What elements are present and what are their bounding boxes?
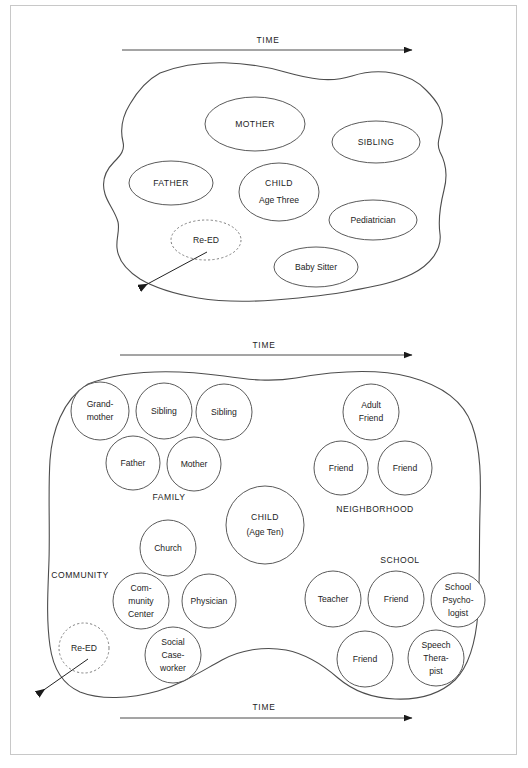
node-adult-friend[interactable]: Adult Friend <box>343 384 399 440</box>
node-sibling-2-label: Sibling <box>211 407 237 417</box>
figure-page: TIME MOTHER SIBLING FATHER CHILD <box>0 0 528 768</box>
node-child-age-ten-label: CHILD <box>251 512 279 522</box>
node-social-caseworker[interactable]: Social Case- worker <box>145 627 201 683</box>
node-baby-sitter-top[interactable]: Baby Sitter <box>274 247 358 287</box>
group-label-family: FAMILY <box>153 492 186 502</box>
node-school-psychologist[interactable]: School Psycho- logist <box>431 573 485 627</box>
group-label-neighborhood: NEIGHBORHOOD <box>336 504 414 514</box>
node-school-psychologist-label: School <box>445 582 471 592</box>
top-nodes: MOTHER SIBLING FATHER CHILD Age Three Pe… <box>129 97 420 288</box>
node-father-bottom[interactable]: Father <box>106 436 160 490</box>
node-mother-bottom[interactable]: Mother <box>167 437 221 491</box>
node-friend-neighborhood-2-label: Friend <box>393 463 418 473</box>
node-child-age-ten-shape <box>226 486 304 564</box>
node-father-top-label: FATHER <box>153 178 189 188</box>
time-axis-middle: TIME <box>120 340 412 355</box>
node-speech-therapist-label2: Thera- <box>423 653 448 663</box>
node-father-bottom-label: Father <box>121 458 146 468</box>
node-re-ed-bottom-label: Re-ED <box>71 643 97 653</box>
node-friend-school-1[interactable]: Friend <box>368 571 424 627</box>
node-grandmother[interactable]: Grand- mother <box>71 382 129 440</box>
node-school-psychologist-label3: logist <box>448 608 469 618</box>
node-friend-neighborhood-2[interactable]: Friend <box>378 441 432 495</box>
node-mother-bottom-label: Mother <box>181 459 208 469</box>
node-mother-top-label: MOTHER <box>235 119 275 129</box>
node-friend-school-2[interactable]: Friend <box>337 631 393 687</box>
node-pediatrician-top[interactable]: Pediatrician <box>329 200 417 240</box>
node-child-age-ten-sublabel: (Age Ten) <box>246 527 283 537</box>
node-church-label: Church <box>154 543 182 553</box>
node-community-center[interactable]: Com- munity Center <box>113 573 169 629</box>
node-mother-top[interactable]: MOTHER <box>205 97 305 151</box>
node-community-center-label: Com- <box>130 583 151 593</box>
node-grandmother-shape <box>71 382 129 440</box>
time-axis-bottom-label: TIME <box>252 702 275 712</box>
node-adult-friend-shape <box>343 384 399 440</box>
node-sibling-top-label: SIBLING <box>358 137 395 147</box>
bottom-nodes-family: Grand- mother Sibling Sibling Father Mot… <box>71 382 252 491</box>
node-grandmother-label: Grand- <box>87 399 114 409</box>
node-community-center-label2: munity <box>128 596 154 606</box>
node-social-caseworker-label3: worker <box>159 663 186 673</box>
bottom-nodes-school: Teacher Friend School Psycho- logist Fri… <box>305 571 485 687</box>
node-child-age-three-sublabel: Age Three <box>259 195 299 205</box>
node-speech-therapist[interactable]: Speech Thera- pist <box>408 630 464 686</box>
node-teacher-label: Teacher <box>318 594 349 604</box>
node-child-age-three[interactable]: CHILD Age Three <box>239 163 319 221</box>
node-speech-therapist-label: Speech <box>421 640 450 650</box>
node-social-caseworker-label: Social <box>161 637 184 647</box>
node-friend-school-1-label: Friend <box>384 594 409 604</box>
node-child-age-three-shape <box>239 163 319 221</box>
node-baby-sitter-top-label: Baby Sitter <box>295 262 337 272</box>
node-sibling-1[interactable]: Sibling <box>136 383 192 439</box>
node-physician-label: Physician <box>191 596 228 606</box>
node-friend-neighborhood-1-label: Friend <box>329 463 354 473</box>
node-friend-neighborhood-1[interactable]: Friend <box>314 441 368 495</box>
node-sibling-2[interactable]: Sibling <box>196 384 252 440</box>
time-axis-top-label: TIME <box>256 35 279 45</box>
time-axis-bottom: TIME <box>120 702 412 718</box>
node-father-top[interactable]: FATHER <box>129 161 213 205</box>
bottom-nodes-neighborhood: Adult Friend Friend Friend <box>314 384 432 495</box>
node-child-age-three-label: CHILD <box>265 178 293 188</box>
re-ed-arrow-top <box>140 252 207 288</box>
node-re-ed-bottom[interactable]: Re-ED <box>59 623 109 673</box>
node-speech-therapist-label3: pist <box>429 666 443 676</box>
node-social-caseworker-label2: Case- <box>162 650 185 660</box>
node-friend-school-2-label: Friend <box>353 654 378 664</box>
time-axis-top: TIME <box>122 35 412 50</box>
node-sibling-top[interactable]: SIBLING <box>332 121 420 163</box>
node-church[interactable]: Church <box>140 520 196 576</box>
node-teacher[interactable]: Teacher <box>305 571 361 627</box>
node-child-age-ten[interactable]: CHILD (Age Ten) <box>226 486 304 564</box>
node-pediatrician-top-label: Pediatrician <box>351 215 396 225</box>
re-ed-arrow-bottom <box>38 659 88 694</box>
node-school-psychologist-label2: Psycho- <box>442 595 473 605</box>
node-adult-friend-label: Adult <box>361 400 381 410</box>
diagram-canvas: TIME MOTHER SIBLING FATHER CHILD <box>0 0 528 768</box>
node-adult-friend-label2: Friend <box>359 413 384 423</box>
group-label-community: COMMUNITY <box>51 570 109 580</box>
node-re-ed-top-label: Re-ED <box>193 235 219 245</box>
node-grandmother-label2: mother <box>87 412 114 422</box>
time-axis-middle-label: TIME <box>252 340 275 350</box>
group-label-school: SCHOOL <box>380 555 419 565</box>
node-physician[interactable]: Physician <box>182 574 236 628</box>
bottom-nodes-community: Church Com- munity Center Physician Soci… <box>38 520 236 694</box>
node-re-ed-top[interactable]: Re-ED <box>171 220 241 260</box>
node-sibling-1-label: Sibling <box>151 406 177 416</box>
node-community-center-label3: Center <box>128 609 154 619</box>
